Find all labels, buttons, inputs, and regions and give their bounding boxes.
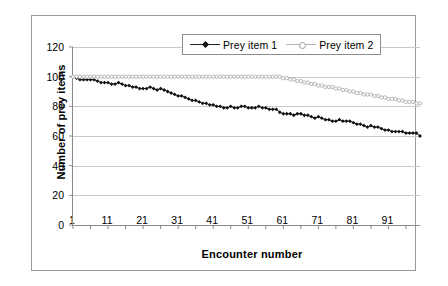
data-point	[401, 99, 404, 102]
data-point	[159, 75, 162, 78]
data-point	[376, 94, 379, 97]
data-point	[201, 101, 205, 105]
y-tick-label: 80	[34, 100, 64, 112]
data-point	[127, 75, 130, 78]
data-point	[366, 93, 369, 96]
data-point	[327, 85, 330, 88]
data-point	[208, 103, 212, 107]
data-point	[197, 100, 201, 104]
data-point	[71, 75, 74, 78]
data-point	[397, 130, 401, 134]
data-point	[85, 75, 88, 78]
data-point	[380, 127, 384, 131]
data-point	[282, 76, 285, 79]
data-point	[257, 75, 260, 78]
data-point	[352, 121, 356, 125]
data-point	[320, 116, 324, 120]
data-point	[211, 103, 215, 107]
data-point	[145, 87, 149, 91]
data-point	[330, 119, 334, 123]
data-point	[303, 81, 306, 84]
data-point	[103, 75, 106, 78]
data-point	[302, 113, 306, 117]
data-point	[218, 104, 222, 108]
data-point	[257, 104, 261, 108]
legend-marker-prey-item-1	[190, 40, 220, 49]
data-point	[254, 75, 257, 78]
data-point	[233, 75, 236, 78]
data-point	[183, 96, 187, 100]
data-point	[212, 75, 215, 78]
data-point	[362, 124, 366, 128]
data-point	[281, 112, 285, 116]
data-point	[148, 75, 151, 78]
data-point	[285, 76, 288, 79]
data-point	[310, 82, 313, 85]
data-point	[190, 75, 193, 78]
data-point	[243, 104, 247, 108]
data-point	[264, 75, 267, 78]
data-point	[408, 131, 412, 135]
data-point	[387, 97, 390, 100]
data-point	[236, 75, 239, 78]
data-point	[271, 107, 275, 111]
legend-marker-prey-item-2	[286, 40, 316, 49]
data-point	[187, 97, 191, 101]
data-point	[404, 100, 407, 103]
data-point	[316, 115, 320, 119]
data-point	[96, 75, 99, 78]
data-point	[155, 75, 158, 78]
data-point	[124, 84, 128, 88]
data-point	[183, 75, 186, 78]
data-point	[260, 106, 264, 110]
plot-area	[72, 47, 420, 226]
data-point	[411, 100, 414, 103]
data-point	[369, 124, 373, 128]
data-point	[309, 115, 313, 119]
legend-label-prey-item-1: Prey item 1	[223, 39, 277, 51]
data-point	[173, 93, 177, 97]
data-point	[134, 85, 138, 89]
data-point	[173, 75, 176, 78]
chart-legend: Prey item 1 Prey item 2	[182, 34, 381, 55]
data-point	[113, 75, 116, 78]
data-point	[194, 75, 197, 78]
data-point	[166, 75, 169, 78]
data-point	[176, 94, 180, 98]
data-point	[215, 75, 218, 78]
data-point	[99, 75, 102, 78]
data-point	[373, 125, 377, 129]
data-point	[187, 75, 190, 78]
data-point	[75, 75, 78, 78]
data-point	[117, 75, 120, 78]
data-point	[247, 75, 250, 78]
data-point	[159, 87, 163, 91]
data-point	[113, 82, 117, 86]
data-point	[253, 106, 257, 110]
data-point	[120, 82, 124, 86]
data-point	[110, 75, 113, 78]
data-point	[222, 106, 226, 110]
data-point	[229, 104, 233, 108]
data-point	[131, 75, 134, 78]
data-point	[313, 116, 317, 120]
data-point	[334, 119, 338, 123]
data-point	[208, 75, 211, 78]
data-point	[267, 107, 271, 111]
data-point	[131, 85, 135, 89]
data-point	[96, 79, 100, 83]
data-point	[155, 88, 159, 92]
data-point	[152, 87, 156, 91]
data-point	[222, 75, 225, 78]
data-point	[380, 96, 383, 99]
data-series-layer	[73, 47, 420, 225]
data-point	[271, 75, 274, 78]
data-point	[390, 97, 393, 100]
data-point	[239, 104, 243, 108]
data-point	[120, 75, 123, 78]
data-point	[320, 84, 323, 87]
data-point	[148, 85, 152, 89]
data-point	[345, 88, 348, 91]
data-point	[285, 112, 289, 116]
data-point	[169, 75, 172, 78]
